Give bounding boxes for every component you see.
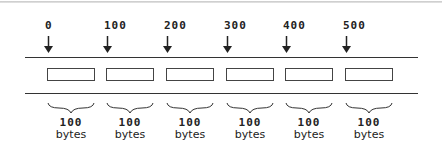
block-size-unit: bytes <box>279 129 339 141</box>
byte-offset-diagram: 0100200300400500 100bytes100bytes100byte… <box>0 0 442 158</box>
down-arrow-icon <box>342 36 351 57</box>
block-size-label: 100bytes <box>160 117 220 141</box>
buffer-bottom-line <box>25 93 418 94</box>
block-size-unit: bytes <box>160 129 220 141</box>
block-size-unit: bytes <box>339 129 399 141</box>
block-size-label: 100bytes <box>41 117 101 141</box>
memory-block <box>226 68 274 81</box>
offset-label: 500 <box>343 19 366 32</box>
memory-block <box>345 68 393 81</box>
offset-label: 200 <box>164 19 187 32</box>
memory-block <box>106 68 154 81</box>
down-arrow-icon <box>223 36 232 57</box>
block-size-unit: bytes <box>220 129 280 141</box>
memory-block <box>47 68 95 81</box>
offset-label: 0 <box>45 19 53 32</box>
down-arrow-icon <box>163 36 172 57</box>
memory-block <box>166 68 214 81</box>
offset-label: 300 <box>224 19 247 32</box>
block-size-label: 100bytes <box>100 117 160 141</box>
memory-block <box>285 68 333 81</box>
block-size-unit: bytes <box>100 129 160 141</box>
down-arrow-icon <box>103 36 112 57</box>
block-size-unit: bytes <box>41 129 101 141</box>
block-size-label: 100bytes <box>220 117 280 141</box>
offset-label: 100 <box>104 19 127 32</box>
top-border <box>0 1 442 3</box>
offset-label: 400 <box>283 19 306 32</box>
down-arrow-icon <box>282 36 291 57</box>
block-size-label: 100bytes <box>279 117 339 141</box>
block-size-label: 100bytes <box>339 117 399 141</box>
down-arrow-icon <box>44 36 53 57</box>
buffer-top-line <box>25 57 418 58</box>
